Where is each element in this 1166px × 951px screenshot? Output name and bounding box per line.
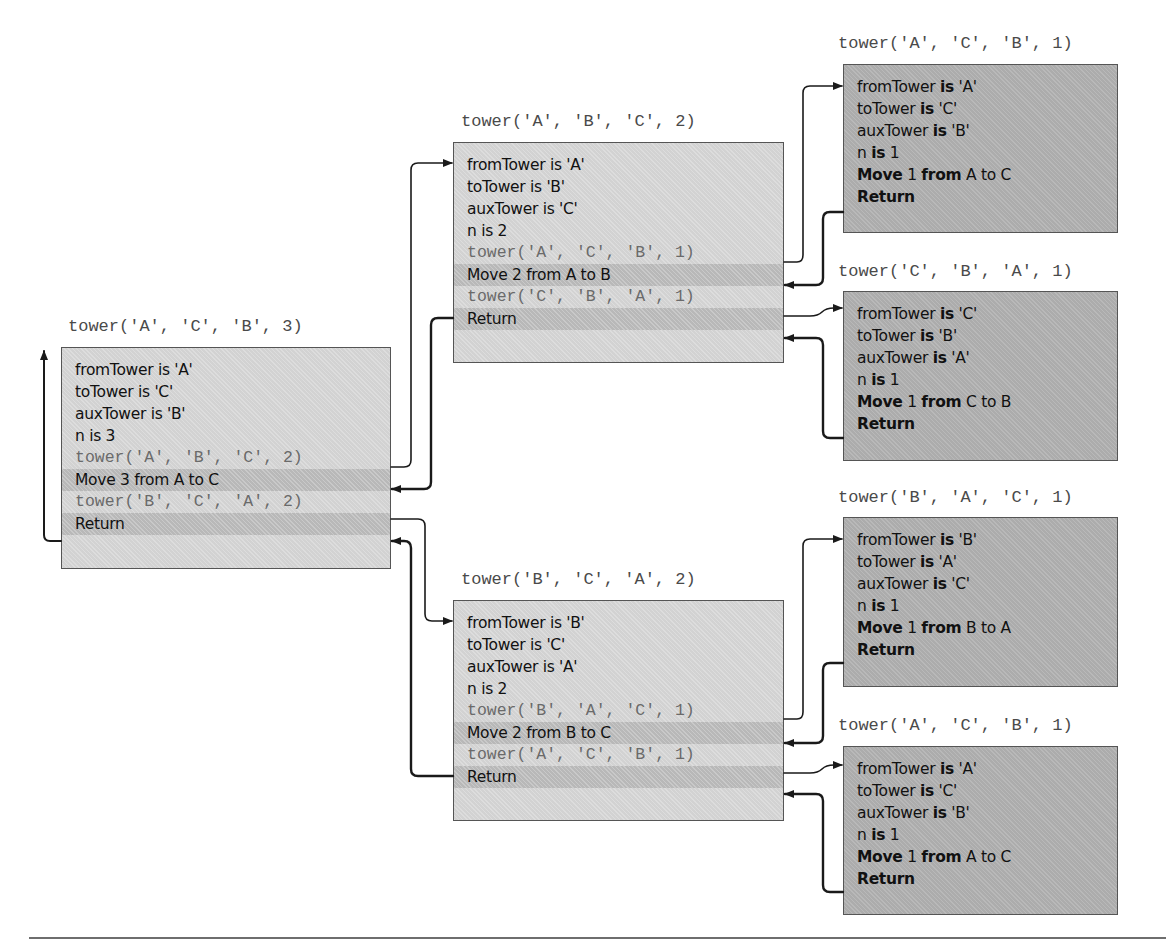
return-line: Return [844, 868, 1117, 890]
call-frame-mid-top: fromTower is 'A' toTower is 'B' auxTower… [453, 142, 784, 363]
n-line: n is 3 [62, 425, 390, 447]
recursive-call-1: tower('B', 'A', 'C', 1) [454, 700, 783, 722]
n-line: n is 1 [844, 824, 1117, 846]
call-label-leaf-4: tower('A', 'C', 'B', 1) [838, 716, 1073, 736]
return-arrow-icon [785, 338, 843, 438]
aux-tower-line: auxTower is 'B' [844, 120, 1117, 142]
return-line: Return [454, 308, 783, 330]
n-line: n is 1 [844, 595, 1117, 617]
recursive-call-2: tower('C', 'B', 'A', 1) [454, 286, 783, 308]
recursive-call-2: tower('B', 'C', 'A', 2) [62, 491, 390, 513]
return-arrow-icon [392, 318, 453, 489]
from-tower-line: fromTower is 'A' [844, 758, 1117, 780]
call-arrow-icon [391, 163, 452, 467]
n-line: n is 1 [844, 142, 1117, 164]
call-arrow-icon [784, 86, 842, 262]
call-label-leaf-3: tower('B', 'A', 'C', 1) [838, 488, 1073, 508]
move-line: Move 1 from B to A [844, 617, 1117, 639]
move-line: Move 3 from A to C [62, 469, 390, 491]
aux-tower-line: auxTower is 'A' [454, 656, 783, 678]
return-arrow-icon [785, 663, 843, 743]
aux-tower-line: auxTower is 'C' [454, 198, 783, 220]
return-line: Return [844, 186, 1117, 208]
return-line: Return [454, 766, 783, 788]
to-tower-line: toTower is 'C' [844, 98, 1117, 120]
recursive-call-2: tower('A', 'C', 'B', 1) [454, 744, 783, 766]
from-tower-line: fromTower is 'A' [62, 359, 390, 381]
to-tower-line: toTower is 'B' [454, 176, 783, 198]
call-arrow-icon [784, 308, 842, 316]
n-line: n is 2 [454, 678, 783, 700]
from-tower-line: fromTower is 'C' [844, 303, 1117, 325]
aux-tower-line: auxTower is 'C' [844, 573, 1117, 595]
return-arrow-icon [785, 212, 843, 285]
from-tower-line: fromTower is 'A' [454, 154, 783, 176]
aux-tower-line: auxTower is 'B' [844, 802, 1117, 824]
call-label-mid-top: tower('A', 'B', 'C', 2) [461, 112, 696, 132]
return-arrow-icon [392, 541, 453, 776]
return-arrow-icon [785, 794, 843, 892]
call-label-leaf-1: tower('A', 'C', 'B', 1) [838, 34, 1073, 54]
from-tower-line: fromTower is 'B' [844, 529, 1117, 551]
recursive-call-1: tower('A', 'B', 'C', 2) [62, 447, 390, 469]
aux-tower-line: auxTower is 'B' [62, 403, 390, 425]
call-arrow-icon [784, 765, 842, 773]
n-line: n is 2 [454, 220, 783, 242]
move-line: Move 1 from C to B [844, 391, 1117, 413]
bottom-divider [29, 937, 1166, 939]
move-line: Move 1 from A to C [844, 846, 1117, 868]
to-tower-line: toTower is 'C' [62, 381, 390, 403]
to-tower-line: toTower is 'C' [454, 634, 783, 656]
from-tower-line: fromTower is 'B' [454, 612, 783, 634]
return-line: Return [62, 513, 390, 535]
to-tower-line: toTower is 'B' [844, 325, 1117, 347]
to-tower-line: toTower is 'C' [844, 780, 1117, 802]
return-line: Return [844, 639, 1117, 661]
call-frame-mid-bottom: fromTower is 'B' toTower is 'C' auxTower… [453, 600, 784, 821]
return-line: Return [844, 413, 1117, 435]
call-frame-leaf-1: fromTower is 'A' toTower is 'C' auxTower… [843, 64, 1118, 233]
aux-tower-line: auxTower is 'A' [844, 347, 1117, 369]
n-line: n is 1 [844, 369, 1117, 391]
call-frame-leaf-4: fromTower is 'A' toTower is 'C' auxTower… [843, 746, 1118, 915]
from-tower-line: fromTower is 'A' [844, 76, 1117, 98]
move-line: Move 2 from A to B [454, 264, 783, 286]
call-frame-leaf-2: fromTower is 'C' toTower is 'B' auxTower… [843, 291, 1118, 461]
call-arrow-icon [784, 539, 842, 719]
call-label-root: tower('A', 'C', 'B', 3) [68, 317, 303, 337]
recursive-call-1: tower('A', 'C', 'B', 1) [454, 242, 783, 264]
call-arrow-icon [391, 519, 452, 621]
call-frame-leaf-3: fromTower is 'B' toTower is 'A' auxTower… [843, 517, 1118, 687]
root-return-arrow-icon [44, 351, 61, 541]
call-label-leaf-2: tower('C', 'B', 'A', 1) [838, 262, 1073, 282]
call-label-mid-bottom: tower('B', 'C', 'A', 2) [461, 570, 696, 590]
call-frame-root: fromTower is 'A' toTower is 'C' auxTower… [61, 347, 391, 569]
move-line: Move 2 from B to C [454, 722, 783, 744]
to-tower-line: toTower is 'A' [844, 551, 1117, 573]
move-line: Move 1 from A to C [844, 164, 1117, 186]
recursion-trace-diagram: tower('A', 'C', 'B', 3) fromTower is 'A'… [0, 0, 1166, 951]
